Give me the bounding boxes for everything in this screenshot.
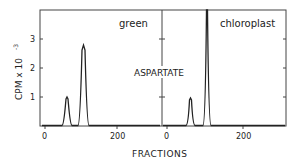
- ytick-label: 1: [30, 93, 35, 102]
- xtick-label: 200: [236, 132, 251, 141]
- ytick-label: 3: [30, 35, 35, 44]
- trace-green: [42, 45, 160, 126]
- panel-label-green: green: [119, 18, 148, 29]
- svg-text:-3: -3: [12, 44, 19, 50]
- y-axis-label: CPM x 10 -3: [12, 44, 24, 100]
- ytick-label: 2: [30, 64, 35, 73]
- x-axis-label: FRACTIONS: [132, 149, 188, 159]
- center-label: ASPARTATE: [134, 68, 184, 78]
- xtick-label: 0: [164, 132, 169, 141]
- xtick-label: 200: [110, 132, 125, 141]
- panel-label-chloroplast: chloroplast: [220, 18, 275, 29]
- svg-text:CPM x 10: CPM x 10: [14, 58, 24, 100]
- chromatogram-chart: 1 2 3 CPM x 10 -3 0 200 0 200 FRACTIONS …: [0, 0, 304, 164]
- xtick-label: 0: [42, 132, 47, 141]
